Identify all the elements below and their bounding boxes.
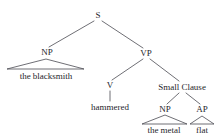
node-np-subject: NP <box>41 47 53 57</box>
branch-vp-to-small-clause <box>150 59 179 81</box>
branch-s-to-np <box>49 21 94 47</box>
syntax-tree-canvas: S NP VP V Small Clause NP AP the blacksm… <box>0 0 220 139</box>
node-ap: AP <box>196 104 208 114</box>
branch-s-to-vp <box>102 21 143 48</box>
leaf-verb: hammered <box>91 102 129 112</box>
branch-small-clause-to-ap <box>186 93 200 104</box>
node-np-object: NP <box>159 104 171 114</box>
syntax-tree-figure: S NP VP V Small Clause NP AP the blacksm… <box>0 0 220 139</box>
np-subject-triangle <box>7 59 84 69</box>
branch-small-clause-to-np <box>167 93 179 104</box>
ap-triangle <box>190 116 214 124</box>
node-small-clause: Small Clause <box>158 82 206 92</box>
np-object-triangle <box>142 115 187 124</box>
node-v: V <box>107 80 114 90</box>
leaf-predicate: flat <box>196 125 208 135</box>
leaf-subject: the blacksmith <box>20 71 73 81</box>
node-s: S <box>95 10 100 20</box>
leaf-object: the metal <box>147 125 181 135</box>
tree-node-labels: S NP VP V Small Clause NP AP <box>41 10 208 114</box>
tree-leaf-labels: the blacksmith hammered the metal flat <box>20 71 209 135</box>
node-vp: VP <box>140 48 152 58</box>
branch-vp-to-v <box>112 59 143 80</box>
